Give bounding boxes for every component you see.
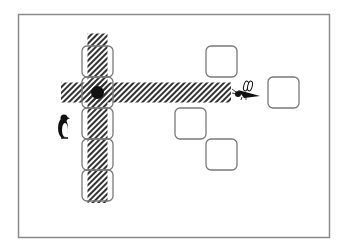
horizontal-band (61, 83, 231, 103)
penguin-belly (62, 123, 68, 137)
player-dot-icon[interactable] (91, 86, 104, 99)
vertical-band (88, 34, 108, 204)
penguin-head (61, 115, 68, 122)
game-board (0, 0, 344, 246)
